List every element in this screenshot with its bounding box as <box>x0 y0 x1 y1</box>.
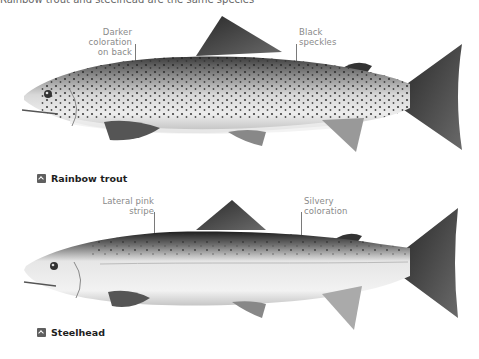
caption-label: Steelhead <box>51 327 105 338</box>
caption-steelhead: Steelhead <box>37 327 105 338</box>
caption-label: Rainbow trout <box>51 173 127 184</box>
cut-off-heading: Rainbow trout and steelhead are the same… <box>0 0 254 5</box>
collapse-icon[interactable] <box>37 174 46 183</box>
rainbow-trout-illustration <box>0 12 479 172</box>
steelhead-illustration <box>0 196 479 346</box>
collapse-icon[interactable] <box>37 328 46 337</box>
caption-rainbow-trout: Rainbow trout <box>37 173 127 184</box>
